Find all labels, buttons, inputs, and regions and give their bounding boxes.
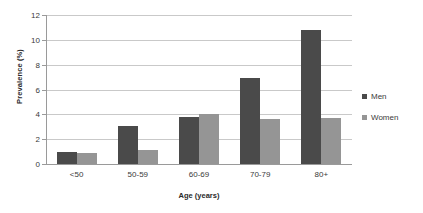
bar-group — [301, 15, 341, 164]
x-axis-tick-label: 80+ — [286, 170, 356, 179]
y-axis-tick — [42, 139, 46, 140]
x-axis-tick-label: 70-79 — [225, 170, 295, 179]
bar-group — [57, 15, 97, 164]
y-axis-tick — [42, 65, 46, 66]
bar-men-50-59 — [118, 126, 138, 164]
y-axis-tick-label: 12 — [6, 11, 40, 20]
prevalence-by-age-bar-chart: Prevalence (%) 024681012 <5050-5960-6970… — [0, 0, 423, 213]
legend-swatch-icon — [362, 115, 367, 120]
y-axis-line — [46, 15, 47, 165]
legend-item-men[interactable]: Men — [362, 91, 398, 101]
y-axis-tick-label: 10 — [6, 35, 40, 44]
bar-men-<50 — [57, 152, 77, 164]
legend-swatch-icon — [362, 94, 367, 99]
bar-group — [179, 15, 219, 164]
bar-men-70-79 — [240, 78, 260, 164]
bar-group — [118, 15, 158, 164]
legend-label: Women — [371, 113, 398, 122]
y-axis-tick — [42, 164, 46, 165]
y-axis-tick — [42, 90, 46, 91]
x-axis-tick-label: <50 — [42, 170, 112, 179]
x-axis-tick-label: 50-59 — [103, 170, 173, 179]
y-axis-tick-label: 8 — [6, 60, 40, 69]
y-axis-tick — [42, 15, 46, 16]
bar-women-60-69 — [199, 114, 219, 164]
y-axis-tick-label: 0 — [6, 160, 40, 169]
legend-item-women[interactable]: Women — [362, 112, 398, 122]
bar-men-60-69 — [179, 117, 199, 164]
plot-area — [46, 15, 352, 164]
bar-women-70-79 — [260, 119, 280, 164]
x-axis-tick-label: 60-69 — [164, 170, 234, 179]
bar-women-50-59 — [138, 150, 158, 164]
y-axis-tick-label: 2 — [6, 135, 40, 144]
x-axis-title: Age (years) — [46, 191, 352, 200]
y-axis-tick — [42, 40, 46, 41]
bar-women-80+ — [321, 118, 341, 164]
y-axis-tick-labels: 024681012 — [0, 0, 40, 213]
x-axis-line — [46, 164, 352, 165]
legend-label: Men — [371, 92, 387, 101]
legend: MenWomen — [362, 91, 398, 133]
bar-men-80+ — [301, 30, 321, 164]
y-axis-tick-label: 4 — [6, 110, 40, 119]
bar-women-<50 — [77, 153, 97, 164]
y-axis-tick-label: 6 — [6, 85, 40, 94]
bar-group — [240, 15, 280, 164]
y-axis-tick — [42, 114, 46, 115]
